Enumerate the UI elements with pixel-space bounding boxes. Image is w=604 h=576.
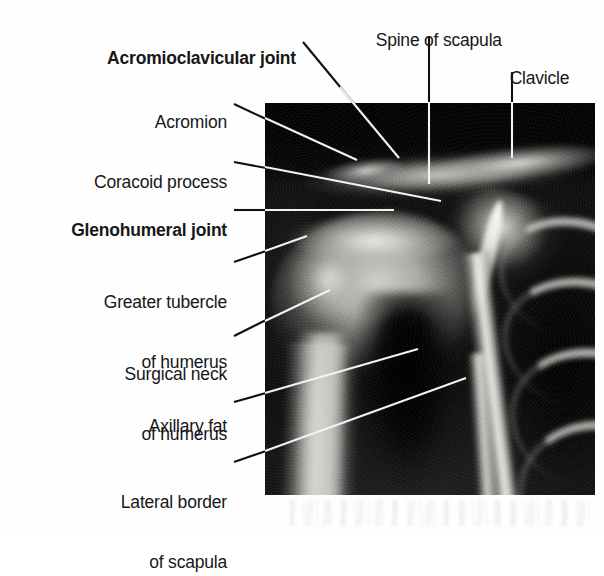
label-clavicle: Clavicle [491, 48, 569, 108]
film-speckle-layer [265, 103, 595, 495]
leader-line-coracoid-process [234, 162, 266, 168]
label-spine-of-scapula-line-1: Spine of scapula [376, 30, 502, 50]
label-lateral-border-of-scapula-line-2: of scapula [121, 552, 227, 572]
label-glenohumeral-joint-line-1: Glenohumeral joint [71, 220, 227, 240]
shoulder-radiograph-image [265, 103, 595, 495]
label-axillary-fat-line-1: Axillary fat [149, 416, 227, 436]
label-glenohumeral-joint: Glenohumeral joint [52, 200, 227, 260]
scan-artifact-smudge [290, 500, 590, 526]
leader-line-surgical-neck-of-humerus [234, 320, 266, 336]
label-surgical-neck-of-humerus-line-1: Surgical neck [125, 364, 227, 384]
label-axillary-fat: Axillary fat [131, 396, 227, 456]
label-acromioclavicular-joint: Acromioclavicular joint [89, 28, 296, 88]
radiograph-canvas [265, 103, 595, 495]
label-coracoid-process-line-1: Coracoid process [94, 172, 227, 192]
label-spine-of-scapula: Spine of scapula [357, 10, 502, 70]
label-lateral-border-of-scapula-line-1: Lateral border [121, 492, 227, 512]
leader-line-acromion [234, 104, 266, 119]
label-acromioclavicular-joint-line-1: Acromioclavicular joint [107, 48, 296, 68]
label-acromion-line-1: Acromion [155, 112, 227, 132]
leader-line-greater-tubercle-of-humerus [234, 251, 266, 262]
label-lateral-border-of-scapula: Lateral border of scapula [121, 452, 227, 576]
leader-line-lateral-border-of-scapula [234, 451, 266, 462]
label-greater-tubercle-of-humerus-line-1: Greater tubercle [104, 292, 227, 312]
label-clavicle-line-1: Clavicle [510, 68, 570, 88]
label-acromion: Acromion [137, 92, 227, 152]
leader-line-axillary-fat [234, 393, 266, 402]
